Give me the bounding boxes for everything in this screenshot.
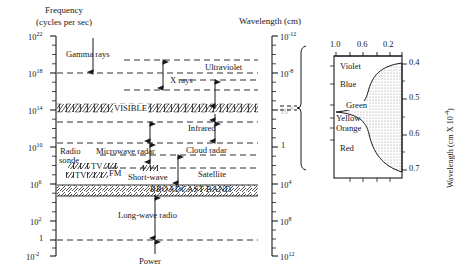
band-label-satellite: Satellite: [198, 170, 226, 179]
inset-right-tick-1: 0.5: [409, 94, 419, 102]
right-axis-title: Wavelength (cm): [218, 17, 322, 26]
band-label-radio-sonde-2: sonde: [59, 156, 79, 165]
right-tick-5: 108: [280, 216, 291, 227]
right-tick-6: 1012: [280, 251, 294, 262]
band-label-infrared: Infrared: [188, 124, 216, 133]
left-tick-4: 106: [30, 179, 41, 190]
inset-top-tick-1: 0.6: [357, 41, 367, 49]
band-label-cloud-radar: Cloud radar: [186, 146, 227, 155]
band-label-x-rays: X rays: [170, 76, 193, 85]
left-axis-title-line2: (cycles per sec): [10, 18, 118, 27]
inset-color-red: Red: [340, 144, 354, 153]
inset-color-yellow: Yellow: [336, 114, 360, 123]
left-tick-0: 1022: [28, 31, 42, 42]
left-tick-5: 102: [30, 216, 41, 227]
band-label-tv-lower: TV: [74, 171, 87, 180]
left-axis-title-line1: Frequency: [14, 6, 114, 15]
left-frequency-axis: [50, 36, 56, 256]
band-label-microwave-radar: Microwave radar: [96, 147, 155, 156]
inset-color-green: Green: [345, 101, 368, 110]
band-label-gamma-rays: Gamma rays: [66, 50, 110, 59]
left-tick-3: 1010: [28, 142, 42, 153]
left-tick-1: 1018: [28, 68, 42, 79]
right-tick-4: 104: [280, 179, 291, 190]
band-label-ultraviolet: Ultraviolet: [205, 63, 242, 72]
inset-top-tick-2: 0.2: [383, 41, 393, 49]
inset-right-tick-3: 0.7: [409, 165, 419, 173]
inset-color-blue: Blue: [340, 80, 356, 89]
left-tick-6: 1: [39, 235, 43, 243]
band-label-power: Power: [139, 257, 161, 266]
band-label-long-wave-radio: Long-wave radio: [118, 211, 177, 220]
right-tick-2: 10-4: [280, 105, 293, 116]
band-label-short-wave: Short-wave: [128, 173, 168, 182]
electromagnetic-spectrum-figure: Frequency (cycles per sec) Wavelength (c…: [0, 0, 455, 272]
right-tick-1: 10-8: [280, 68, 293, 79]
inset-right-tick-0: 0.4: [409, 59, 419, 67]
left-tick-7: 10-2: [26, 251, 39, 262]
band-label-fm: FM: [108, 169, 122, 178]
inset-right-axis-title: Wavelength (cm X 10-4): [443, 108, 455, 188]
inset-color-orange: Orange: [336, 124, 361, 133]
inset-right-tick-2: 0.6: [409, 130, 419, 138]
right-tick-0: 10-12: [280, 31, 296, 42]
inset-color-violet: Violet: [340, 62, 361, 71]
band-label-visible: VISIBLE: [113, 104, 148, 113]
right-wavelength-axis: [272, 36, 278, 256]
band-label-broadcast-band: BROADCAST BAND: [150, 185, 231, 194]
band-label-tv-upper: TV: [90, 162, 103, 171]
right-tick-3: 1: [281, 142, 285, 150]
inset-top-tick-0: 1.0: [330, 41, 340, 49]
visible-band: [57, 104, 258, 112]
left-tick-2: 1014: [28, 105, 42, 116]
